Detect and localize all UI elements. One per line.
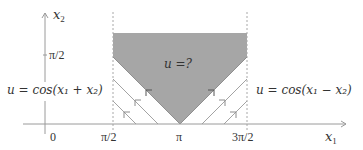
region-label: u =? [164, 57, 193, 71]
y-tick-label-pi-half: π/2 [49, 48, 64, 62]
right-arrowhead-2 [219, 100, 225, 106]
right-boundary-label: u = cos(x₁ − x₂) [256, 83, 352, 97]
unknown-region [113, 33, 247, 124]
x-axis-label: x1 [325, 129, 337, 146]
left-boundary-label: u = cos(x₁ + x₂) [7, 83, 103, 97]
x-tick-label-pi: π [176, 130, 182, 144]
characteristics-diagram: x2 x1 π/2 0 π/2 π 3π/2 u =? u = cos(x₁ +… [0, 0, 363, 150]
x-tick-label-pi-half: π/2 [101, 130, 116, 144]
x-tick-label-three-pi-half: 3π/2 [232, 130, 253, 144]
left-arrowhead-2 [135, 100, 141, 106]
x-tick-label-0: 0 [50, 130, 56, 144]
y-axis-label: x2 [53, 7, 65, 24]
